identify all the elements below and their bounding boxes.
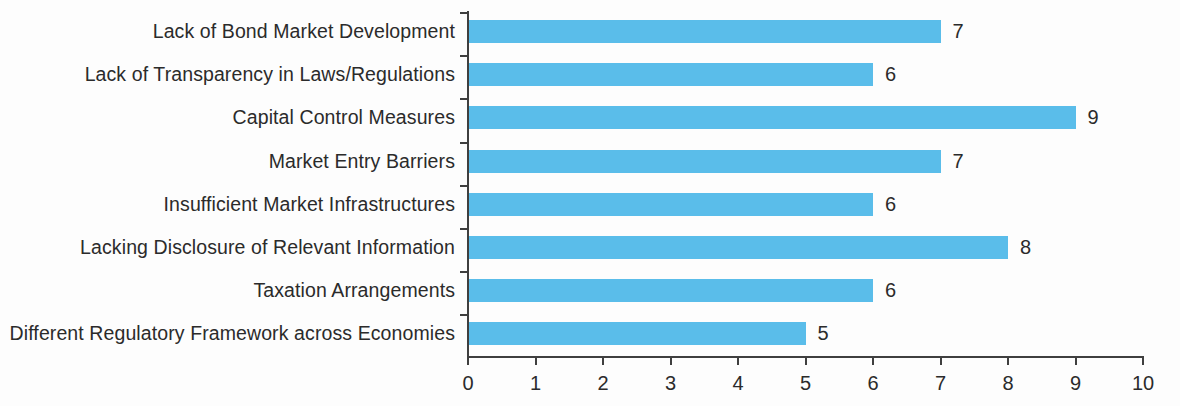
x-axis-tick xyxy=(670,356,672,365)
x-axis-tick xyxy=(1007,356,1009,365)
x-axis-tick-label: 6 xyxy=(853,371,893,395)
bar-value-label: 7 xyxy=(953,20,964,43)
y-axis-tick xyxy=(460,185,468,187)
x-axis-tick-label: 5 xyxy=(786,371,826,395)
x-axis-tick-label: 0 xyxy=(448,371,488,395)
bar xyxy=(468,279,873,302)
category-label: Taxation Arrangements xyxy=(0,279,455,302)
category-label: Lack of Transparency in Laws/Regulations xyxy=(0,63,455,86)
bar-value-label: 7 xyxy=(953,150,964,173)
y-axis-tick xyxy=(460,271,468,273)
x-axis-tick xyxy=(940,356,942,365)
category-label: Lack of Bond Market Development xyxy=(0,20,455,43)
x-axis-tick xyxy=(872,356,874,365)
x-axis-tick-label: 9 xyxy=(1056,371,1096,395)
bar-value-label: 8 xyxy=(1020,236,1031,259)
x-axis-tick-label: 3 xyxy=(651,371,691,395)
x-axis-tick xyxy=(1142,356,1144,365)
bar xyxy=(468,322,806,345)
bar-value-label: 6 xyxy=(885,63,896,86)
x-axis-tick-label: 2 xyxy=(583,371,623,395)
bar xyxy=(468,236,1008,259)
y-axis-tick xyxy=(460,228,468,230)
bar-value-label: 6 xyxy=(885,279,896,302)
bar xyxy=(468,63,873,86)
y-axis-tick xyxy=(460,142,468,144)
chart-container: Lack of Bond Market DevelopmentLack of T… xyxy=(0,0,1180,406)
bar xyxy=(468,150,941,173)
x-axis-tick-label: 1 xyxy=(516,371,556,395)
bar xyxy=(468,106,1076,129)
bar-value-label: 6 xyxy=(885,193,896,216)
x-axis-tick xyxy=(737,356,739,365)
category-label: Market Entry Barriers xyxy=(0,150,455,173)
category-label: Insufficient Market Infrastructures xyxy=(0,193,455,216)
bar xyxy=(468,20,941,43)
x-axis-tick-label: 10 xyxy=(1123,371,1163,395)
x-axis-tick xyxy=(535,356,537,365)
x-axis-tick-label: 4 xyxy=(718,371,758,395)
category-label: Capital Control Measures xyxy=(0,106,455,129)
y-axis-tick xyxy=(460,55,468,57)
y-axis-tick xyxy=(460,314,468,316)
x-axis-tick xyxy=(805,356,807,365)
category-label: Different Regulatory Framework across Ec… xyxy=(0,322,455,345)
x-axis-tick xyxy=(1075,356,1077,365)
y-axis-tick xyxy=(460,12,468,14)
plot-area: 76976865 xyxy=(468,11,1143,357)
x-axis-tick xyxy=(467,356,469,365)
bar-value-label: 9 xyxy=(1088,106,1099,129)
y-axis-tick xyxy=(460,98,468,100)
category-axis-labels: Lack of Bond Market DevelopmentLack of T… xyxy=(0,0,455,357)
x-axis-tick-label: 7 xyxy=(921,371,961,395)
bar-value-label: 5 xyxy=(818,322,829,345)
x-axis-tick xyxy=(602,356,604,365)
x-axis-tick-label: 8 xyxy=(988,371,1028,395)
category-label: Lacking Disclosure of Relevant Informati… xyxy=(0,236,455,259)
bar xyxy=(468,193,873,216)
